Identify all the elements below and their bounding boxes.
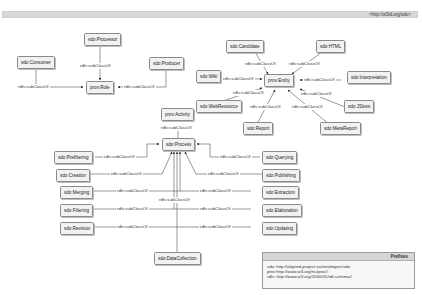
edge-label: rdfs:subClassOf [303, 77, 336, 83]
edge-label: rdfs:subClassOf [160, 125, 193, 131]
node-querying[interactable]: sdo:Querying [262, 151, 297, 164]
node-updating[interactable]: sdo:Updating [262, 222, 297, 235]
node-activity[interactable]: prov:Activity [161, 108, 194, 121]
node-revision[interactable]: sdo:Revision [60, 222, 94, 235]
node-prefiltering[interactable]: sdo:Prefiltering [54, 151, 93, 164]
node-extraction[interactable]: sdo:Extraction [262, 186, 299, 199]
edge-label: rdfs:subClassOf [207, 171, 240, 177]
edge-label: rdfs:subClassOf [116, 188, 149, 194]
edge-label: rdfs:subClassOf [199, 206, 232, 212]
edge-label: rdfs:subClassOf [103, 154, 136, 160]
node-filtering[interactable]: sdo:Filtering [60, 204, 93, 217]
edge-label: rdfs:subClassOf [244, 61, 277, 67]
node-role[interactable]: prov:Role [86, 81, 114, 94]
node-metareport[interactable]: sdo:MetaReport [320, 122, 361, 135]
edge-label: rdfs:subClassOf [249, 104, 282, 110]
node-jsloss[interactable]: sdo:JSloss [344, 100, 374, 113]
node-merging[interactable]: sdo:Merging [60, 186, 93, 199]
node-report[interactable]: sdo:Report [243, 122, 273, 135]
node-consumer[interactable]: sdo:Consumer [17, 56, 55, 69]
node-wiki[interactable]: sdo:Wiki [196, 70, 221, 83]
node-processor[interactable]: sdo:Processor [84, 33, 121, 46]
edge-label: rdfs:subClassOf [110, 171, 143, 177]
node-publishing[interactable]: sdo:Publishing [262, 169, 300, 182]
edge-label: rdfs:subClassOf [288, 61, 321, 67]
node-datacollection[interactable]: sdo:DataCollection [154, 252, 201, 265]
edge-label: rdfs:subClassOf [222, 76, 255, 82]
edge-label: rdfs:subClassOf [123, 84, 156, 90]
edge-label: rdfs:subClassOf [232, 90, 265, 96]
prefix-rdfs: rdfs: http://www.w3.org/2000/01/rdf-sche… [263, 274, 414, 279]
node-creation[interactable]: sdo:Creation [56, 169, 90, 182]
edges-layer [0, 0, 422, 295]
edge-label: rdfs:subClassOf [116, 206, 149, 212]
edge-label: rdfs:subClassOf [79, 63, 112, 69]
node-process[interactable]: sdo:Process [162, 138, 195, 151]
node-elaboration[interactable]: sdo:Elaboration [262, 204, 302, 217]
edge-label: rdfs:subClassOf [199, 188, 232, 194]
node-entity[interactable]: prov:Entity [264, 74, 294, 87]
node-candidate[interactable]: sdo:Candidate [226, 40, 264, 53]
node-interpretation[interactable]: sdo:Interpretation [347, 71, 391, 84]
prefixes-panel: Prefixes sdo: http://aligned-project.eu/… [262, 252, 415, 289]
node-producer[interactable]: sdo:Producer [149, 57, 184, 70]
edge-label: rdfs:subClassOf [116, 224, 149, 230]
node-html[interactable]: sdo:HTML [316, 40, 345, 53]
edge-label: rdfs:subClassOf [199, 224, 232, 230]
edge-label: rdfs:subClassOf [291, 104, 324, 110]
node-webresource[interactable]: sdo:WebResource [196, 100, 242, 113]
prefixes-title: Prefixes [263, 253, 414, 261]
edge-label: rdfs:subClassOf [219, 154, 252, 160]
edge-label: rdfs:subClassOf [300, 91, 333, 97]
edge-label: rdfs:subClassOf [17, 84, 50, 90]
edge-label: rdfs:subClassOf [158, 197, 191, 203]
